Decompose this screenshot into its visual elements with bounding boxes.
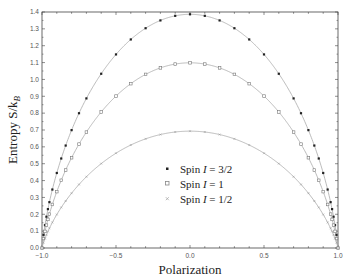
data-point (85, 131, 88, 134)
data-point (85, 176, 87, 178)
data-point (174, 63, 177, 66)
data-point (292, 131, 295, 134)
entropy-chart: 0.00.10.20.30.40.50.60.70.80.91.01.11.21… (0, 0, 348, 278)
y-tick-label: 0.1 (30, 227, 39, 234)
data-point (335, 234, 337, 236)
y-tick-label: 0.6 (30, 143, 39, 150)
data-point (47, 218, 50, 221)
plot-area-border (42, 12, 338, 248)
x-axis-ticks: −1.0−0.50.00.51.0 (36, 12, 343, 259)
data-point (100, 163, 102, 165)
data-point (56, 172, 58, 174)
data-point (174, 15, 176, 17)
y-tick-label: 1.4 (30, 8, 39, 15)
data-point (115, 95, 118, 98)
x-tick-label: 0.0 (185, 252, 194, 259)
y-tick-label: 1.3 (30, 25, 39, 32)
data-point (248, 38, 250, 40)
plot-frame (42, 12, 338, 248)
y-tick-label: 1.0 (30, 76, 39, 83)
data-point (204, 15, 206, 17)
data-point (327, 188, 329, 190)
data-point (278, 163, 280, 165)
data-point (64, 169, 67, 172)
svg-text:Entropy S/kB: Entropy S/kB (5, 96, 22, 164)
open-square-marker-icon (166, 182, 170, 186)
data-point (322, 190, 325, 193)
data-point (330, 201, 332, 203)
data-point (326, 203, 329, 206)
x-tick-label: 1.0 (333, 252, 342, 259)
data-point (144, 73, 147, 76)
data-point (278, 73, 280, 75)
data-point (313, 200, 315, 202)
data-point (42, 234, 44, 236)
filled-square-marker-icon (166, 168, 169, 171)
data-point (60, 179, 63, 182)
legend-label: Spin (180, 163, 203, 175)
curve-spin-i-1 (42, 63, 338, 248)
x-axis-title: Polarization (159, 262, 222, 277)
x-tick-label: −1.0 (36, 252, 49, 259)
svg-text:Spin I = 3/2: Spin I = 3/2 (180, 163, 232, 175)
data-point (263, 53, 265, 55)
data-point (48, 213, 51, 216)
data-point (218, 67, 221, 70)
y-tick-label: 0.0 (30, 244, 39, 251)
y-axis-title: Entropy S/kB (5, 96, 22, 164)
legend-item-spin-1-2: Spin I = 1/2 (166, 193, 233, 205)
legend-item-spin-1: Spin I = 1 (166, 178, 224, 190)
data-point (189, 13, 191, 15)
data-point (48, 201, 50, 203)
svg-text:Spin I = 1: Spin I = 1 (180, 178, 224, 190)
data-point (317, 179, 320, 182)
data-point (307, 129, 309, 131)
data-point (332, 224, 335, 227)
data-point (130, 82, 133, 85)
data-point (65, 200, 67, 202)
data-point (307, 156, 310, 159)
y-tick-label: 0.3 (30, 194, 39, 201)
data-point (51, 203, 54, 206)
data-point (159, 19, 161, 21)
data-point (100, 111, 103, 114)
data-point (313, 144, 315, 146)
data-point (219, 19, 221, 21)
data-point (300, 183, 302, 185)
data-point (300, 112, 302, 114)
data-point (329, 213, 332, 216)
y-tick-label: 0.2 (30, 211, 39, 218)
data-point (204, 63, 207, 66)
legend: Spin I = 3/2 Spin I = 1 Spin I = 1/2 (166, 163, 233, 205)
data-point (313, 169, 316, 172)
data-point (334, 230, 337, 233)
y-axis-title-sub: B (12, 96, 22, 102)
y-tick-label: 0.7 (30, 126, 39, 133)
data-point (159, 67, 162, 70)
data-markers (41, 13, 340, 249)
data-point (130, 38, 132, 40)
legend-label: Spin (180, 178, 203, 190)
x-tick-label: 0.5 (259, 252, 268, 259)
svg-text:Spin I = 1/2: Spin I = 1/2 (180, 193, 232, 205)
data-point (78, 143, 81, 146)
data-point (189, 62, 192, 65)
data-point (60, 157, 62, 159)
data-point (85, 97, 87, 99)
y-tick-label: 0.8 (30, 109, 39, 116)
y-tick-label: 1.1 (30, 59, 39, 66)
data-point (293, 97, 295, 99)
data-point (263, 95, 266, 98)
data-point (248, 82, 251, 85)
data-point (71, 129, 73, 131)
data-point (233, 27, 235, 29)
y-tick-label: 1.2 (30, 42, 39, 49)
data-point (51, 188, 53, 190)
data-point (322, 172, 324, 174)
data-point (70, 156, 73, 159)
data-point (307, 192, 309, 194)
data-point (331, 218, 334, 221)
data-point (318, 157, 320, 159)
data-point (100, 73, 102, 75)
legend-label: Spin (180, 193, 203, 205)
